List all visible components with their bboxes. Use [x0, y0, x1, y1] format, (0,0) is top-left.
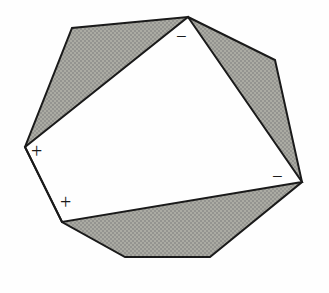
polygon-figure — [0, 0, 329, 293]
sign-plus-left: + — [31, 141, 42, 161]
figure-canvas: − − + + — [0, 0, 329, 293]
sign-plus-lower-left: + — [60, 192, 71, 212]
sign-minus-top: − — [176, 27, 187, 46]
sign-minus-right: − — [272, 167, 283, 186]
